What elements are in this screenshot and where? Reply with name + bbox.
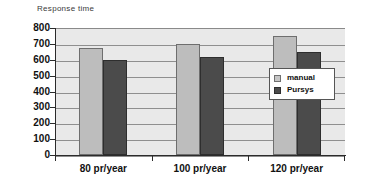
legend: manualPursys xyxy=(269,68,335,100)
legend-swatch-manual xyxy=(274,75,281,82)
y-axis: 8007006005004003002001000 xyxy=(0,0,50,195)
legend-item: manual xyxy=(274,72,331,84)
chart-screenshot: { "chart_data": { "type": "bar", "title"… xyxy=(0,0,365,195)
bar-pursys-0 xyxy=(103,60,127,155)
x-axis-tick-mark xyxy=(152,156,153,161)
x-axis-tick-label: 120 pr/year xyxy=(270,164,323,174)
y-axis-tick-label: 400 xyxy=(33,87,50,97)
legend-swatch-pursys xyxy=(274,87,281,94)
bar-manual-1 xyxy=(176,44,200,155)
x-axis-tick-mark xyxy=(344,156,345,161)
legend-label: Pursys xyxy=(287,86,314,94)
bar-group xyxy=(55,29,152,155)
y-axis-tick-label: 100 xyxy=(33,134,50,144)
y-axis-line xyxy=(55,28,56,156)
bar-group xyxy=(152,29,249,155)
x-axis-tick-mark xyxy=(248,156,249,161)
x-axis-tick-label: 100 pr/year xyxy=(174,164,227,174)
bar-pursys-1 xyxy=(200,57,224,155)
legend-item: Pursys xyxy=(274,84,331,96)
y-axis-tick-label: 800 xyxy=(33,23,50,33)
y-axis-tick-label: 700 xyxy=(33,39,50,49)
x-axis-tick-label: 80 pr/year xyxy=(80,164,127,174)
bar-manual-0 xyxy=(79,48,103,155)
y-axis-tick-label: 200 xyxy=(33,118,50,128)
legend-label: manual xyxy=(287,74,315,82)
x-axis-tick-mark xyxy=(55,156,56,161)
x-axis-tick-marks xyxy=(55,156,346,161)
x-axis: 80 pr/year100 pr/year120 pr/year xyxy=(55,164,346,180)
y-axis-tick-label: 500 xyxy=(33,71,50,81)
y-axis-tick-label: 600 xyxy=(33,55,50,65)
y-axis-tick-label: 300 xyxy=(33,102,50,112)
